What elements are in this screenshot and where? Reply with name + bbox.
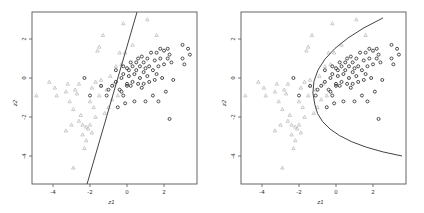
triangle-marker: [294, 139, 297, 142]
circle-marker: [127, 69, 130, 72]
circle-marker: [325, 106, 328, 109]
circle-marker: [140, 55, 143, 58]
circle-marker: [368, 57, 371, 60]
circle-marker: [131, 65, 134, 68]
triangle-marker: [90, 131, 93, 134]
circle-marker: [183, 63, 186, 66]
triangle-marker: [312, 111, 315, 114]
circle-marker: [131, 80, 134, 83]
circle-marker: [372, 49, 375, 52]
right-panel: -4-20220-2-4z1z2: [221, 12, 406, 205]
circle-marker: [298, 94, 301, 97]
circle-marker: [122, 73, 125, 76]
triangle-marker: [98, 45, 101, 48]
circle-marker: [357, 65, 360, 68]
triangle-marker: [308, 78, 311, 81]
circle-marker: [151, 94, 154, 97]
circle-marker: [333, 102, 336, 105]
circle-marker: [138, 77, 141, 80]
circle-marker: [357, 80, 360, 83]
triangle-marker: [288, 113, 291, 116]
x-tick-label: 0: [334, 189, 338, 195]
circle-marker: [396, 47, 399, 50]
circle-marker: [329, 90, 332, 93]
circle-marker: [320, 84, 323, 87]
circle-marker: [349, 86, 352, 89]
triangle-marker: [74, 88, 77, 91]
triangle-marker: [83, 147, 86, 150]
triangle-marker: [244, 94, 247, 97]
triangle-marker: [283, 88, 286, 91]
circle-marker: [359, 51, 362, 54]
y-tick-label: 2: [21, 37, 27, 41]
circle-marker: [166, 57, 169, 60]
triangle-marker: [332, 51, 335, 54]
circle-marker: [155, 73, 158, 76]
circle-marker: [335, 84, 338, 87]
circle-marker: [116, 106, 119, 109]
circle-marker: [120, 90, 123, 93]
triangle-marker: [72, 108, 75, 111]
circle-marker: [140, 86, 143, 89]
circle-marker: [135, 69, 138, 72]
triangle-marker: [118, 51, 121, 54]
circle-marker: [338, 61, 341, 64]
triangle-marker: [155, 33, 158, 36]
triangle-marker: [68, 100, 71, 103]
circle-marker: [150, 51, 153, 54]
triangle-marker: [81, 133, 84, 136]
circle-marker: [366, 65, 369, 68]
triangle-marker: [64, 90, 67, 93]
triangle-marker: [103, 111, 106, 114]
circle-marker: [100, 84, 103, 87]
circle-marker: [142, 61, 145, 64]
triangle-marker: [275, 82, 278, 85]
circle-marker: [166, 47, 169, 50]
circle-marker: [372, 63, 375, 66]
triangle-marker: [307, 94, 310, 97]
circle-marker: [111, 84, 114, 87]
circle-marker: [331, 94, 334, 97]
triangle-marker: [122, 22, 125, 25]
triangle-marker: [290, 123, 293, 126]
circle-marker: [351, 71, 354, 74]
linear-decision-boundary: [87, 12, 137, 184]
triangle-marker: [277, 100, 280, 103]
circle-marker: [188, 53, 191, 56]
circle-marker: [83, 77, 86, 80]
figure: -4-20220-2-4z1z2 -4-20220-2-4z1z2: [0, 0, 424, 213]
triangle-marker: [325, 94, 328, 97]
circle-marker: [373, 90, 376, 93]
circle-marker: [392, 63, 395, 66]
triangle-marker: [286, 82, 289, 85]
circle-marker: [122, 94, 125, 97]
triangle-marker: [48, 80, 51, 83]
triangle-marker: [281, 108, 284, 111]
y-tick-label: -2: [21, 114, 27, 119]
y-tick-label: -4: [21, 153, 27, 159]
circle-marker: [124, 102, 127, 105]
circle-marker: [161, 77, 164, 80]
circle-marker: [377, 117, 380, 120]
triangle-marker: [297, 123, 300, 126]
triangle-marker: [364, 33, 367, 36]
circle-marker: [105, 94, 108, 97]
circle-marker: [331, 73, 334, 76]
triangle-marker: [79, 113, 82, 116]
circle-marker: [370, 77, 373, 80]
triangle-marker: [101, 33, 104, 36]
circle-marker: [187, 47, 190, 50]
triangle-marker: [116, 94, 119, 97]
triangle-marker: [77, 82, 80, 85]
circle-marker: [351, 61, 354, 64]
y-tick-label: -2: [230, 114, 236, 119]
triangle-marker: [355, 18, 358, 21]
circle-marker: [135, 61, 138, 64]
triangle-marker: [85, 139, 88, 142]
circle-marker: [377, 53, 380, 56]
circle-marker: [336, 75, 339, 78]
triangle-marker: [90, 86, 93, 89]
circle-marker: [364, 51, 367, 54]
triangle-marker: [279, 123, 282, 126]
triangle-marker: [94, 115, 97, 118]
